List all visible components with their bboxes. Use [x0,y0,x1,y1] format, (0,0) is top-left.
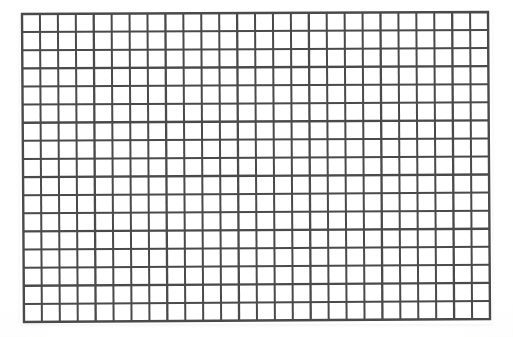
image-canvas [0,0,513,337]
wire-mesh-panel [0,0,513,337]
